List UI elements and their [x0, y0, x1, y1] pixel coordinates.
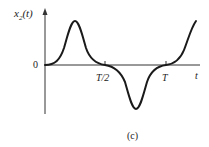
origin-label: 0	[33, 59, 38, 70]
y-axis-label: x2(t)	[13, 7, 33, 22]
figure-caption: (c)	[127, 130, 138, 142]
signal-diagram: x2(t) 0 T/2 T t (c)	[0, 0, 209, 147]
tick-label-period: T	[162, 72, 169, 83]
x-axis-label: t	[195, 70, 198, 81]
tick-label-half-period: T/2	[96, 72, 109, 83]
y-axis-arrow-icon	[43, 8, 48, 15]
